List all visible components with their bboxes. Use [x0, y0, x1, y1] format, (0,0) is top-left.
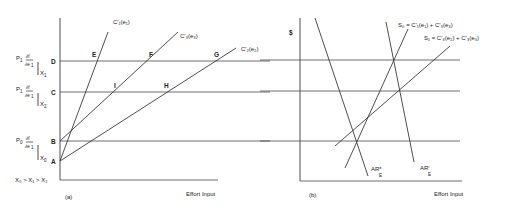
y-label-c: P 1 ∂f ∂e 1 X 2: [16, 85, 47, 109]
curve-ar-prime-sub: E: [428, 172, 431, 177]
curve-c3: [60, 32, 178, 141]
curve-c1: [60, 32, 108, 161]
svg-text:∂e: ∂e: [25, 144, 30, 149]
curve-c2-label: C′₂(e₂): [241, 46, 258, 52]
svg-text:1: 1: [31, 63, 34, 68]
curve-c3-label: C′₃(e₃): [180, 33, 198, 39]
curve-c1-label: C′₁(e₁): [113, 19, 130, 25]
curve-s1: [335, 46, 450, 146]
curve-s0: [345, 29, 408, 168]
point-c-label: C: [51, 89, 56, 96]
svg-text:1: 1: [31, 145, 34, 150]
curve-ar-prime-label: AR′: [420, 165, 430, 171]
point-a-label: A: [51, 158, 56, 165]
curve-s0-label: S₀ = C′₁(e₁) + C′₃(e₃): [398, 22, 453, 28]
point-b-label: B: [51, 138, 56, 145]
point-h-label: H: [164, 82, 169, 89]
svg-text:2: 2: [44, 104, 47, 109]
point-g-label: G: [214, 51, 219, 58]
panel-b-caption: (b): [309, 192, 316, 198]
point-e-label: E: [92, 51, 97, 58]
svg-text:∂e: ∂e: [25, 93, 30, 98]
point-d-label: D: [51, 58, 56, 65]
svg-text:1: 1: [31, 94, 34, 99]
point-f-label: F: [149, 51, 153, 58]
svg-text:∂f: ∂f: [26, 136, 30, 141]
svg-text:1: 1: [20, 89, 23, 94]
curve-c2: [60, 48, 236, 161]
svg-text:1: 1: [20, 58, 23, 63]
panel-b-x-label: Effort Input: [434, 191, 464, 197]
panel-b-y-label: $: [289, 29, 293, 37]
svg-text:0: 0: [44, 158, 47, 163]
svg-text:∂e: ∂e: [25, 62, 30, 67]
panel-a: D C B A E F G I H C′₁(e₁) C′₃(e₃) C′₂(e₂…: [15, 18, 270, 200]
diagram-canvas: D C B A E F G I H C′₁(e₁) C′₃(e₃) C′₂(e₂…: [0, 0, 506, 210]
curve-ar-star: [315, 18, 368, 176]
point-i-label: I: [114, 82, 116, 89]
y-label-b: P 0 ∂f ∂e 1 X 0: [16, 136, 47, 163]
svg-text:0: 0: [20, 140, 23, 145]
svg-text:∂f: ∂f: [26, 85, 30, 90]
curve-s1-label: S₁ = C′₃(e₂) + C′₃(e₃): [424, 35, 479, 41]
panel-a-caption: (a): [65, 194, 72, 200]
panel-a-x-label: Effort Input: [186, 191, 216, 197]
svg-text:1: 1: [44, 73, 47, 78]
panel-b: $ S₀ = C′₁(e₁) + C′₃(e₃) S₁ = C′₃(e₂) + …: [260, 18, 479, 198]
svg-text:∂f: ∂f: [26, 54, 30, 59]
y-label-d: P 1 ∂f ∂e 1 X 1: [16, 54, 47, 78]
ordering-annotation: X₀ > X₁ > X₂: [15, 177, 48, 183]
curve-ar-star-sub: E: [379, 173, 382, 178]
curve-ar-star-label: AR*: [371, 166, 382, 172]
